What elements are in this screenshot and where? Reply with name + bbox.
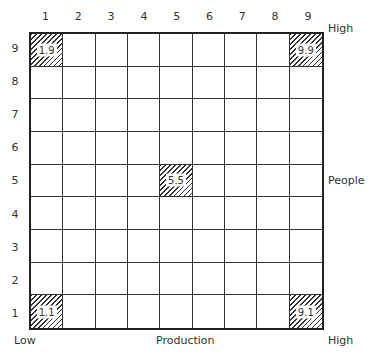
grid-cell xyxy=(63,99,95,132)
grid-cell xyxy=(257,230,289,263)
y-tick: 1 xyxy=(8,307,22,320)
grid-cell xyxy=(63,230,95,263)
grid-cell xyxy=(63,132,95,165)
y-tick: 3 xyxy=(8,241,22,254)
grid-cell xyxy=(160,67,192,100)
x-tick: 9 xyxy=(291,10,324,23)
grid-cell xyxy=(290,99,322,132)
grid-cell xyxy=(96,132,128,165)
grid-cell xyxy=(257,263,289,296)
grid-cell xyxy=(96,165,128,198)
grid-cell xyxy=(290,67,322,100)
grid-cell xyxy=(96,197,128,230)
grid-cell xyxy=(290,263,322,296)
x-tick: 5 xyxy=(160,10,193,23)
y-tick: 9 xyxy=(8,42,22,55)
grid-cell xyxy=(31,99,63,132)
grid-cell xyxy=(96,34,128,67)
grid-cell xyxy=(160,295,192,328)
cell-label: 9.1 xyxy=(296,305,316,318)
grid-cell xyxy=(63,165,95,198)
grid-cell xyxy=(31,263,63,296)
grid-cell xyxy=(290,132,322,165)
grid-cell xyxy=(225,67,257,100)
grid-cell xyxy=(96,230,128,263)
x-tick: 7 xyxy=(226,10,259,23)
grid-cell xyxy=(225,263,257,296)
grid-cell xyxy=(225,165,257,198)
grid-cell xyxy=(128,295,160,328)
grid-cell xyxy=(31,132,63,165)
grid-cell xyxy=(193,34,225,67)
highlighted-cell: 1.1 xyxy=(31,295,63,328)
x-tick: 8 xyxy=(259,10,292,23)
cell-label: 5.5 xyxy=(166,174,186,187)
grid-cell xyxy=(290,165,322,198)
grid-cell xyxy=(63,263,95,296)
grid-cell xyxy=(160,34,192,67)
highlighted-cell: 1.9 xyxy=(31,34,63,67)
grid-cell xyxy=(193,132,225,165)
grid-cell xyxy=(257,197,289,230)
grid-cell xyxy=(128,132,160,165)
grid-cell xyxy=(96,67,128,100)
grid-cell xyxy=(193,263,225,296)
grid-cell xyxy=(193,99,225,132)
grid-cell xyxy=(96,295,128,328)
grid-cell xyxy=(160,230,192,263)
grid-cell xyxy=(160,132,192,165)
y-axis-label: People xyxy=(328,174,365,187)
y-tick: 7 xyxy=(8,108,22,121)
y-high-label: High xyxy=(328,22,353,35)
grid-cell xyxy=(63,295,95,328)
x-tick: 1 xyxy=(29,10,62,23)
grid-cell xyxy=(225,197,257,230)
grid-cell xyxy=(31,165,63,198)
grid-cell xyxy=(160,197,192,230)
low-label: Low xyxy=(14,334,36,347)
grid-cell xyxy=(128,230,160,263)
grid-cell xyxy=(96,263,128,296)
grid-cell xyxy=(96,99,128,132)
x-tick: 6 xyxy=(193,10,226,23)
grid-cell xyxy=(225,99,257,132)
y-tick: 5 xyxy=(8,174,22,187)
x-axis-label: Production xyxy=(156,334,215,347)
grid-cell xyxy=(128,263,160,296)
grid-cell xyxy=(63,67,95,100)
grid-cell xyxy=(31,230,63,263)
grid-cell xyxy=(128,99,160,132)
x-tick: 2 xyxy=(62,10,95,23)
grid-cell xyxy=(257,67,289,100)
grid-cell xyxy=(290,197,322,230)
grid-cell xyxy=(63,34,95,67)
grid-cell xyxy=(257,165,289,198)
x-high-label: High xyxy=(328,334,353,347)
grid-cell xyxy=(128,34,160,67)
grid-cell xyxy=(257,295,289,328)
grid-cell xyxy=(193,295,225,328)
grid-cell xyxy=(225,230,257,263)
grid-cell xyxy=(257,132,289,165)
grid-cell xyxy=(160,99,192,132)
grid-cell xyxy=(225,34,257,67)
y-tick: 8 xyxy=(8,75,22,88)
grid-cell xyxy=(257,99,289,132)
grid-cell xyxy=(193,230,225,263)
grid-cell xyxy=(31,197,63,230)
grid-cell xyxy=(193,165,225,198)
grid-cell xyxy=(31,67,63,100)
grid-cell xyxy=(225,295,257,328)
grid-cell xyxy=(193,67,225,100)
grid-cell xyxy=(257,34,289,67)
cell-label: 1.9 xyxy=(37,43,57,56)
x-tick: 3 xyxy=(95,10,128,23)
grid-cell xyxy=(128,197,160,230)
grid-cell xyxy=(128,67,160,100)
highlighted-cell: 5.5 xyxy=(160,165,192,198)
grid-cell xyxy=(160,263,192,296)
grid-cell xyxy=(128,165,160,198)
y-tick: 4 xyxy=(8,208,22,221)
highlighted-cell: 9.9 xyxy=(290,34,322,67)
grid-cell xyxy=(225,132,257,165)
